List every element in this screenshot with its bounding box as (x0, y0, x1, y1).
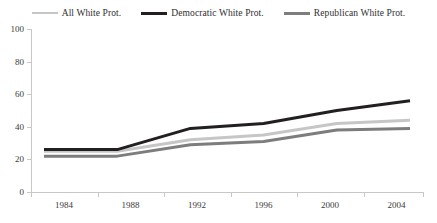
series-layer (0, 0, 437, 223)
line-chart-figure: All White Prot. Democratic White Prot. R… (0, 0, 437, 223)
